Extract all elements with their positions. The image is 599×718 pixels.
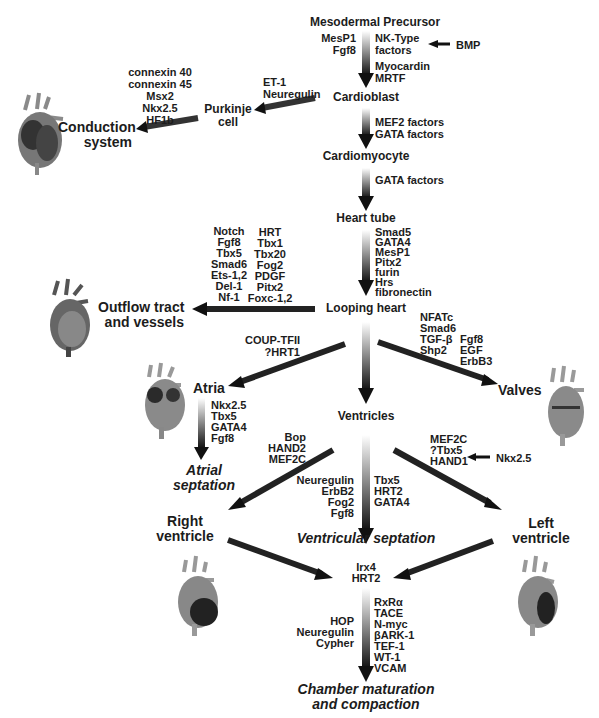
- factors-maturation-right: RxRαTACEN-mycβARK-1TEF-1WT-1VCAM: [374, 597, 414, 674]
- stage-valves: Valves: [498, 383, 542, 398]
- heart-valves-icon: [548, 366, 584, 446]
- stage-outflow-tract: Outflow tractand vessels: [98, 300, 184, 330]
- arrow-atria-to-septation: [194, 398, 209, 460]
- factors-left-ventricle-inputs: MEF2C?Tbx5HAND1: [430, 434, 468, 467]
- factors-maturation-left: HOPNeuregulinCypher: [290, 616, 354, 649]
- stage-heart-tube: Heart tube: [326, 212, 406, 225]
- stage-chamber-maturation: Chamber maturationand compaction: [296, 682, 436, 712]
- stage-atrial-septation: Atrialseptation: [168, 463, 240, 493]
- arrow-tube-to-looping: [358, 230, 374, 296]
- stage-atria: Atria: [193, 381, 225, 396]
- arrow-looping-to-outflow: [192, 302, 315, 316]
- arrow-precursor-to-cardioblast: [358, 31, 374, 88]
- factors-precursor-left: MesP1Fgf8: [318, 32, 356, 56]
- factors-merge: Irx4HRT2: [338, 562, 394, 584]
- factors-myocardin: MyocardinMRTF: [375, 60, 430, 84]
- factors-tube-to-looping: Smad5GATA4MesP1Pitx2furinHrsfibronectin: [375, 227, 432, 297]
- stage-left-ventricle: Leftventricle: [506, 516, 576, 546]
- heart-right-ventricle-icon: [178, 556, 218, 636]
- arrow-looping-to-ventricles: [358, 322, 374, 404]
- arrows-layer: [0, 0, 599, 718]
- stage-conduction-system: Conductionsystem: [58, 120, 132, 150]
- factors-valves-col2: Fgf8EGFErbB3: [460, 334, 492, 367]
- stage-cardioblast: Cardioblast: [326, 91, 406, 104]
- factor-bmp: BMP: [456, 39, 480, 51]
- factors-vsept-left: NeuregulinErbB2Fog2Fgf8: [290, 475, 354, 519]
- stage-mesodermal-precursor: Mesodermal Precursor: [310, 16, 430, 29]
- factor-nkx25: Nkx2.5: [496, 452, 531, 464]
- arrow-left-ventricle-to-merge: [393, 541, 493, 580]
- factors-nk-type: NK-Typefactors: [375, 32, 419, 56]
- stage-ventricles: Ventricles: [326, 410, 406, 423]
- factors-valves-col1: NFATcSmad6TGF-βShp2: [420, 312, 456, 356]
- arrow-cardioblast-to-cardiomyocyte: [358, 108, 374, 149]
- arrow-right-ventricle-to-merge: [228, 540, 333, 580]
- factors-purkinje-inputs: ET-1Neuregulin: [263, 76, 320, 100]
- factors-atrial-septation: Nkx2.5Tbx5GATA4Fgf8: [211, 400, 247, 444]
- factors-conduction: connexin 40connexin 45Msx2Nkx2.5HF1b: [125, 66, 195, 126]
- heart-conduction-icon: [18, 93, 63, 175]
- arrow-ventricles-to-septation: [358, 435, 374, 544]
- arrow-nkx25-to-hand1: [467, 453, 490, 461]
- factors-mef2-gata: MEF2 factorsGATA factors: [375, 116, 444, 140]
- stage-cardiomyocyte: Cardiomyocyte: [316, 150, 416, 163]
- factors-gata: GATA factors: [375, 174, 444, 186]
- factors-vsept-right: Tbx5HRT2GATA4: [374, 475, 410, 508]
- diagram-canvas: Mesodermal Precursor Cardioblast Cardiom…: [0, 0, 599, 718]
- arrow-cardiomyocyte-to-tube: [358, 168, 374, 211]
- factors-right-ventricle-inputs: BopHAND2MEF2C: [250, 432, 306, 465]
- arrow-bmp: [428, 40, 450, 48]
- heart-outflow-icon: [50, 279, 90, 357]
- arrow-merge-to-maturation: [358, 588, 374, 682]
- stage-ventricular-septation: Ventricular septation: [296, 531, 436, 546]
- factors-outflow-col2: HRTTbx1Tbx20Fog2PDGFPitx2Foxc-1,2: [246, 227, 294, 304]
- factors-atria-inputs: COUP-TFII?HRT1: [240, 334, 300, 358]
- arrow-cardioblast-to-purkinje: [254, 98, 315, 114]
- stage-looping-heart: Looping heart: [316, 302, 416, 315]
- heart-atria-icon: [145, 363, 185, 439]
- stage-purkinje-cell: Purkinjecell: [200, 103, 256, 129]
- stage-right-ventricle: Rightventricle: [150, 514, 220, 544]
- heart-left-ventricle-icon: [518, 556, 558, 636]
